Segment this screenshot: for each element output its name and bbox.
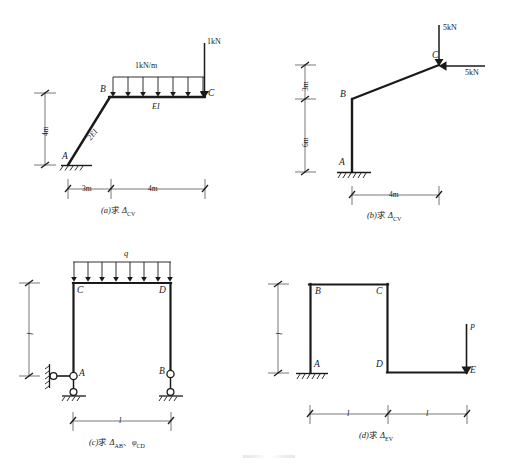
caption-subscript-b: CV [393,216,401,222]
dimension-label-height: 4m [42,126,50,136]
caption-cn-b: 求 [377,210,386,220]
frame-members-d [309,284,467,373]
node-label-b: B [315,287,321,297]
load-label-vertical: 5kN [443,24,457,32]
dimension-vertical-d [268,281,289,376]
dimension-label-upper: 3m [302,81,310,91]
node-label-d: D [159,286,166,296]
node-label-e: E [470,366,476,376]
support-fixed-d [296,374,328,380]
figure-caption-d: (d)求 ΔEV [359,428,393,442]
caption-subscript-d: EV [385,436,393,442]
frame-members-b [352,65,439,172]
figure-b-drawing [257,0,514,232]
figure-caption-a: (a)求 ΔCV [101,203,135,217]
dimension-label-height: l [26,333,35,335]
dimension-label-span2: 4m [148,185,158,193]
dimension-label-lower: 6m [302,137,310,147]
figure-caption-c: (c)求 ΔAB、φCD [89,435,145,449]
node-label-c: C [77,286,83,296]
dimension-horizontal-c [70,412,174,431]
figure-a-drawing [0,0,257,232]
caption-prefix-a: (a) [101,205,111,215]
caption-separator-c: 、 [123,437,132,447]
dimension-label-span: 4m [389,191,399,199]
node-label-c: C [432,51,438,61]
figure-a: A B C 2EI EI 1kN/m 1kN 4m 3m 4m (a)求 ΔCV [0,0,257,232]
load-label-distributed: 1kN/m [135,62,157,70]
caption-subscript-a: CV [127,211,135,217]
page-footer-artifact [243,455,295,458]
dimension-label-span1: l [347,409,349,418]
caption-subscript2-c: CD [137,443,145,449]
member-label-ei: EI [152,103,160,111]
dimension-label-span1: 3m [82,185,92,193]
node-label-c: C [376,287,382,297]
figure-d: B C A D E P l l l (d)求 ΔEV [257,232,514,464]
frame-members-c [73,283,171,373]
distributed-load-a [113,77,205,93]
node-label-b: B [340,90,346,100]
figure-caption-b: (b)求 ΔCV [367,208,401,222]
caption-cn-c: 求 [98,437,107,447]
node-label-a: A [314,360,320,370]
figure-c-drawing [0,232,257,464]
caption-cn-a: 求 [111,205,120,215]
dimension-vertical-c [19,280,40,379]
dimension-label-height: l [275,333,284,335]
node-label-b: B [159,367,165,377]
dimension-horizontal-d [307,405,470,424]
support-fixed-a [60,166,92,171]
caption-cn-d: 求 [369,430,378,440]
problem-figure-sheet: A B C 2EI EI 1kN/m 1kN 4m 3m 4m (a)求 ΔCV [0,0,515,465]
load-label-horizontal: 5kN [465,69,479,77]
caption-prefix-b: (b) [367,210,377,220]
support-fixed-b [337,173,371,179]
caption-subscript-c: AB [115,443,123,449]
dimension-label-span2: l [426,409,428,418]
node-label-b: B [100,85,106,95]
distributed-load-c [73,262,171,278]
node-label-a: A [62,152,68,162]
node-label-a: A [339,158,345,168]
load-label-p: P [470,324,475,332]
dimension-vertical-b [295,62,316,175]
figure-b: A B C 5kN 5kN 3m 6m 4m (b)求 ΔCV [257,0,514,232]
load-label-q: q [124,249,128,258]
dimension-label-span: l [119,416,121,425]
node-label-a: A [79,369,85,379]
figure-c: q C D A B l l (c)求 ΔAB、φCD [0,232,257,464]
node-label-d: D [376,360,383,370]
node-label-c: C [208,89,214,99]
load-label-point: 1kN [207,38,221,46]
caption-prefix-d: (d) [359,430,369,440]
